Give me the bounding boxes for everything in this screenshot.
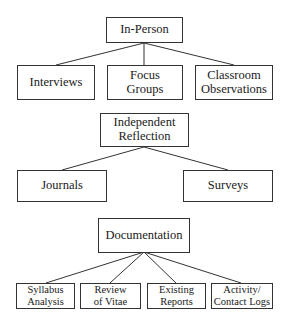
node-surveys: Surveys bbox=[183, 170, 273, 202]
link-inperson-interviews bbox=[56, 43, 144, 65]
node-label: Interviews bbox=[30, 76, 83, 90]
node-interviews: Interviews bbox=[17, 65, 95, 100]
link-reflection-surveys bbox=[144, 147, 228, 170]
link-doc-logs bbox=[144, 252, 241, 283]
node-label: Existing Reports bbox=[159, 284, 194, 308]
node-review-of-vitae: Review of Vitae bbox=[80, 283, 141, 309]
node-focus-groups: Focus Groups bbox=[107, 65, 183, 100]
node-classroom-observations: Classroom Observations bbox=[195, 65, 273, 100]
link-reflection-journals bbox=[62, 147, 144, 170]
link-inperson-classroom bbox=[144, 43, 234, 65]
node-label: Syllabus Analysis bbox=[27, 284, 64, 308]
node-independent-reflection: Independent Reflection bbox=[100, 113, 189, 147]
node-in-person: In-Person bbox=[106, 17, 183, 43]
node-label: Independent Reflection bbox=[114, 116, 176, 144]
node-label: Focus Groups bbox=[127, 69, 164, 97]
node-label: Journals bbox=[41, 179, 83, 193]
node-documentation: Documentation bbox=[98, 218, 190, 253]
connector-lines bbox=[0, 0, 288, 331]
node-label: Classroom Observations bbox=[201, 69, 267, 97]
node-existing-reports: Existing Reports bbox=[147, 283, 206, 309]
node-syllabus-analysis: Syllabus Analysis bbox=[16, 283, 75, 309]
node-label: Surveys bbox=[208, 179, 248, 193]
node-activity-contact-logs: Activity/ Contact Logs bbox=[211, 283, 273, 309]
node-label: Activity/ Contact Logs bbox=[214, 284, 270, 308]
node-journals: Journals bbox=[17, 170, 107, 202]
node-label: In-Person bbox=[120, 23, 169, 37]
link-doc-syllabus bbox=[46, 252, 144, 283]
link-doc-vitae bbox=[110, 252, 144, 283]
node-label: Documentation bbox=[105, 229, 182, 243]
node-label: Review of Vitae bbox=[94, 284, 127, 308]
